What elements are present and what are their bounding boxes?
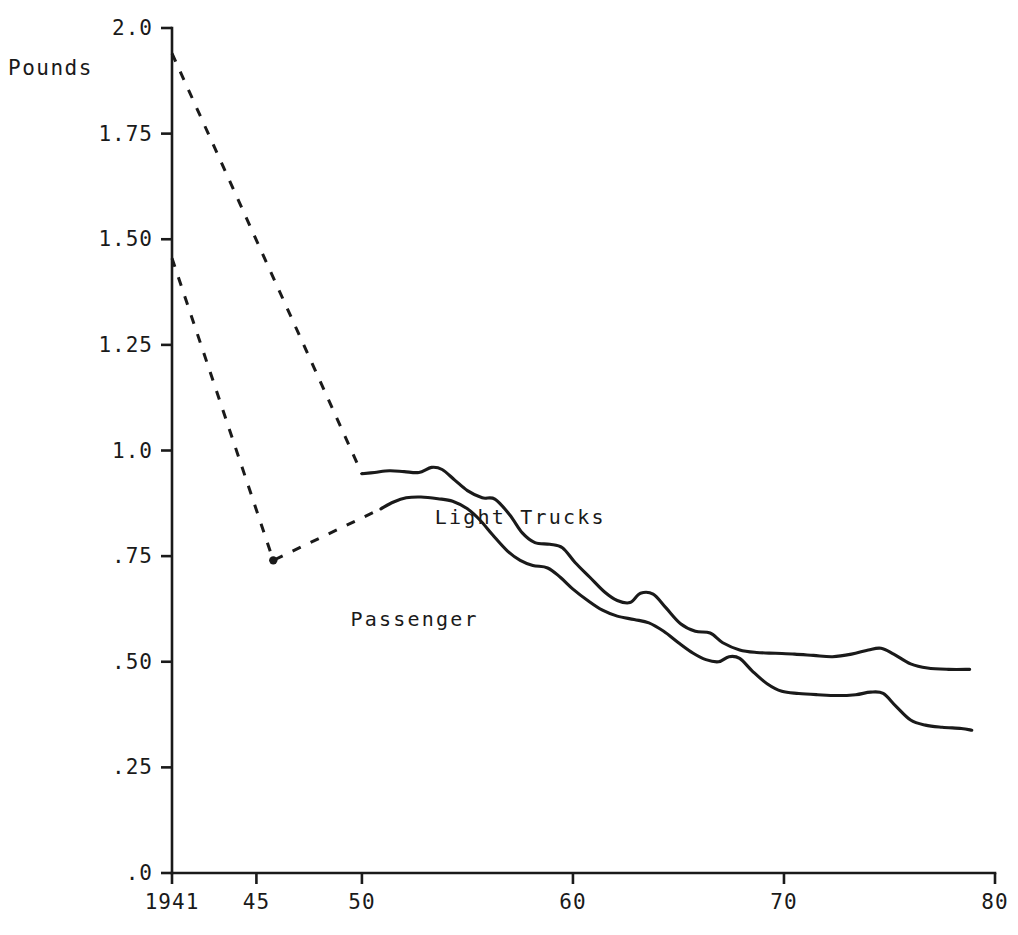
y-tick-label: 1.75 bbox=[98, 122, 153, 146]
y-tick-label: .0 bbox=[126, 861, 153, 885]
x-tick-label: 70 bbox=[770, 890, 797, 914]
series-layer bbox=[172, 53, 972, 730]
series-passenger bbox=[172, 258, 972, 730]
y-axis-ticks bbox=[161, 28, 172, 873]
x-tick-label: 60 bbox=[559, 890, 586, 914]
y-tick-label: 1.25 bbox=[98, 333, 153, 357]
y-tick-label: 1.0 bbox=[112, 439, 153, 463]
x-tick-label: 1941 bbox=[145, 890, 200, 914]
x-tick-label: 50 bbox=[348, 890, 375, 914]
series-annotation-label: Light Trucks bbox=[435, 505, 606, 529]
y-axis: 2.01.751.501.251.0.75.50.25.0 bbox=[98, 16, 172, 885]
y-tick-label: .75 bbox=[112, 544, 153, 568]
series-dashed-segment bbox=[172, 258, 381, 560]
x-axis-ticks bbox=[172, 873, 995, 884]
y-tick-label: 1.50 bbox=[98, 227, 153, 251]
series-annotations: Light TrucksPassenger bbox=[351, 505, 606, 630]
x-tick-label: 45 bbox=[243, 890, 270, 914]
series-annotation-label: Passenger bbox=[351, 607, 479, 631]
chart-container: 2.01.751.501.251.0.75.50.25.0 1941455060… bbox=[0, 0, 1018, 935]
y-axis-tick-labels: 2.01.751.501.251.0.75.50.25.0 bbox=[98, 16, 153, 885]
y-tick-label: 2.0 bbox=[112, 16, 153, 40]
x-axis: 19414550607080 bbox=[145, 873, 1009, 914]
y-tick-label: .50 bbox=[112, 650, 153, 674]
line-chart: 2.01.751.501.251.0.75.50.25.0 1941455060… bbox=[0, 0, 1018, 935]
series-line bbox=[362, 467, 970, 669]
x-axis-tick-labels: 19414550607080 bbox=[145, 890, 1009, 914]
series-light-trucks bbox=[172, 53, 970, 669]
y-axis-title: Pounds bbox=[8, 56, 93, 80]
x-tick-label: 80 bbox=[981, 890, 1008, 914]
series-elbow-marker bbox=[269, 556, 277, 564]
series-dashed-segment bbox=[172, 53, 362, 473]
y-tick-label: .25 bbox=[112, 755, 153, 779]
